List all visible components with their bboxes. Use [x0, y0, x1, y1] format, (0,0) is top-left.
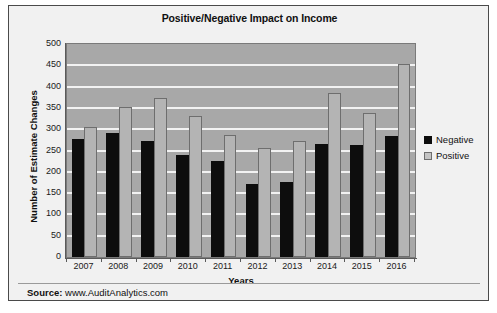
y-tick-400: 400: [31, 81, 61, 91]
x-tick-2008: 2008: [108, 261, 128, 271]
y-tick-200: 200: [31, 166, 61, 176]
bar-positive-2016: [398, 64, 411, 257]
bar-positive-2011: [224, 135, 237, 257]
legend-item-negative[interactable]: Negative: [424, 134, 474, 145]
x-tick-mark: [344, 259, 345, 262]
bar-positive-2014: [328, 93, 341, 257]
x-axis-tick-labels: 2007200820092010201120122013201420152016: [66, 261, 416, 275]
x-tick-mark: [101, 259, 102, 262]
chart-legend: NegativePositive: [424, 134, 474, 166]
x-tick-mark: [275, 259, 276, 262]
plot-area: [66, 43, 416, 258]
bar-positive-2008: [119, 107, 132, 257]
bar-positive-2013: [293, 141, 306, 257]
bar-positive-2012: [258, 148, 271, 257]
x-tick-mark: [414, 259, 415, 262]
y-tick-300: 300: [31, 123, 61, 133]
gridline: [67, 64, 415, 66]
x-tick-2013: 2013: [282, 261, 302, 271]
bar-negative-2011: [211, 161, 224, 257]
x-axis-title: Years: [66, 275, 416, 286]
y-tick-150: 150: [31, 187, 61, 197]
x-tick-mark: [240, 259, 241, 262]
bar-positive-2007: [84, 127, 97, 257]
legend-label: Positive: [436, 150, 469, 161]
chart-title: Positive/Negative Impact on Income: [9, 12, 490, 24]
bar-negative-2007: [72, 139, 85, 257]
bar-negative-2015: [350, 145, 363, 257]
legend-swatch-icon: [424, 136, 432, 144]
y-tick-500: 500: [31, 38, 61, 48]
bar-negative-2010: [176, 155, 189, 257]
source-label: Source:: [27, 287, 62, 298]
x-tick-2010: 2010: [178, 261, 198, 271]
x-tick-mark: [66, 259, 67, 262]
x-tick-2011: 2011: [213, 261, 232, 271]
source-note: Source: www.AuditAnalytics.com: [27, 287, 168, 298]
x-tick-mark: [205, 259, 206, 262]
bar-negative-2012: [246, 184, 259, 257]
bar-negative-2014: [315, 144, 328, 257]
x-tick-mark: [136, 259, 137, 262]
gridline: [67, 86, 415, 88]
x-axis-line: [65, 258, 417, 259]
y-tick-0: 0: [31, 251, 61, 261]
bar-positive-2009: [154, 98, 167, 257]
source-value: www.AuditAnalytics.com: [62, 287, 168, 298]
y-tick-350: 350: [31, 102, 61, 112]
legend-item-positive[interactable]: Positive: [424, 150, 474, 161]
x-tick-2014: 2014: [317, 261, 337, 271]
y-tick-450: 450: [31, 59, 61, 69]
chart-figure: Positive/Negative Impact on Income Numbe…: [8, 5, 489, 301]
x-tick-mark: [170, 259, 171, 262]
x-tick-mark: [310, 259, 311, 262]
y-tick-50: 50: [31, 230, 61, 240]
y-tick-100: 100: [31, 208, 61, 218]
bar-negative-2013: [280, 182, 293, 257]
legend-swatch-icon: [424, 152, 432, 160]
footer-divider: [18, 283, 480, 284]
x-tick-2007: 2007: [73, 261, 93, 271]
y-axis-tick-labels: 500450400350300250200150100500: [27, 43, 61, 258]
bar-positive-2010: [189, 116, 202, 257]
legend-label: Negative: [436, 134, 474, 145]
x-tick-2009: 2009: [143, 261, 163, 271]
x-tick-mark: [379, 259, 380, 262]
y-tick-250: 250: [31, 145, 61, 155]
bar-negative-2009: [141, 141, 154, 257]
x-tick-2016: 2016: [387, 261, 407, 271]
x-tick-2012: 2012: [247, 261, 267, 271]
bar-positive-2015: [363, 113, 376, 257]
x-tick-2015: 2015: [352, 261, 372, 271]
bar-negative-2008: [106, 133, 119, 257]
bar-negative-2016: [385, 136, 398, 257]
